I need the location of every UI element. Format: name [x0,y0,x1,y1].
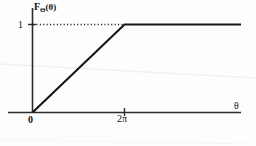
x-tick-label-2pi: 2π [117,114,127,124]
cdf-plot-figure: FΘ(θ) 1 0 2π θ [0,0,256,146]
x-axis-label: θ [234,101,239,111]
y-tick-label-1: 1 [18,20,23,30]
x-tick-label-0: 0 [28,115,33,125]
y-axis-label-argument: (θ) [46,2,57,12]
scan-artifact-line-secondary [0,140,256,144]
plot-canvas [0,0,256,146]
y-axis-label: FΘ(θ) [34,2,56,14]
scan-artifact-line [0,64,256,78]
